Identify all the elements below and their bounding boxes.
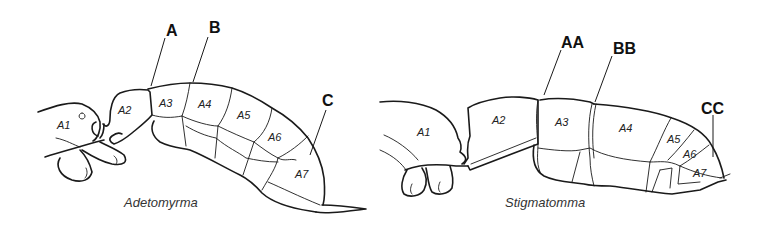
leader-aa [544,50,561,95]
sting [316,205,366,213]
coxa-1-crease [85,168,87,178]
coxa-2-crease [439,182,441,192]
suture-a3-a4-tergite [182,83,190,116]
a1-lower-line [380,150,406,170]
a1-base [45,140,104,157]
coxa-1 [402,168,426,196]
callout-c: C [322,92,334,109]
label-a4: A4 [197,98,211,110]
coxa-2-crease [114,156,117,164]
leader-c [310,110,326,155]
label-a5: A5 [236,109,251,121]
a1-lower-line [56,138,80,147]
spiracle-a1 [79,113,85,119]
callout-a: A [166,22,178,39]
label-a3: A3 [158,97,173,109]
a2-sternite [471,138,536,164]
sternite-a5-box [652,168,672,192]
leader-bb [595,56,612,102]
sternite-a3 [572,152,580,182]
leader-b [193,37,208,82]
a1-base [405,165,468,170]
segment-a3-outline [540,99,594,104]
sternite-a4-a5 [215,126,218,158]
sternite-a4-a5 [646,162,650,192]
ant-abdomen-diagram: A B C A1 A2 A3 A4 A5 A6 A7 Adetomyrma [0,0,765,238]
diagram-canvas: A B C A1 A2 A3 A4 A5 A6 A7 Adetomyrma [0,0,765,238]
callout-cc: CC [701,100,725,117]
segment-a2-outline [103,90,152,144]
coxa-1 [58,150,92,181]
label-a1: A1 [416,126,430,138]
label-a1: A1 [56,119,70,131]
label-a4: A4 [618,122,632,134]
panel-adetomyrma: A B C A1 A2 A3 A4 A5 A6 A7 Adetomyrma [38,19,366,213]
suture-a4-a5-tergite [218,88,232,126]
callout-b: B [209,19,221,36]
label-a2: A2 [117,104,131,116]
segment-a2-outline [464,97,538,170]
genus-label-adetomyrma: Adetomyrma [123,195,198,210]
coxa-2 [426,166,453,194]
coxa-1-crease [411,184,413,194]
label-a6: A6 [682,148,697,160]
a1-inner-line [384,135,418,160]
gaster-dorsal-outline [148,83,325,205]
label-a7: A7 [294,168,309,180]
leader-a [151,38,165,86]
sting [720,174,730,178]
callout-aa: AA [561,34,585,51]
genus-label-stigmatomma: Stigmatomma [505,195,585,210]
sternite-a3-a4 [182,116,186,146]
label-a3: A3 [554,116,569,128]
panel-stigmatomma: AA BB CC A1 A2 A3 A4 A5 A6 A7 Stigmatomm… [380,34,730,210]
sternite-margin [186,126,278,162]
a1-lobe [92,122,98,136]
label-a6: A6 [267,131,282,143]
label-a5: A5 [666,133,681,145]
suture-a6-a7-tergite [278,136,308,158]
label-a7: A7 [692,167,707,179]
callout-bb: BB [613,40,636,57]
label-a2: A2 [491,114,505,126]
